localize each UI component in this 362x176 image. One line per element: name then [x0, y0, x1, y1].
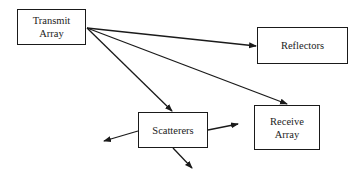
scatterers-box: Scatterers [138, 112, 208, 148]
arrow-scatterers-right [208, 124, 238, 130]
receive-array-box: Receive Array [254, 105, 320, 150]
reflectors-label: Reflectors [281, 39, 324, 52]
transmit-array-label: Transmit Array [33, 14, 71, 40]
transmit-array-box: Transmit Array [17, 9, 86, 45]
arrow-scatterers-down [173, 148, 192, 168]
diagram-canvas: Transmit Array Reflectors Scatterers Rec… [0, 0, 362, 176]
receive-array-label: Receive Array [270, 115, 304, 141]
arrow-transmit-to-scatterers [87, 28, 172, 111]
scatterers-label: Scatterers [152, 124, 193, 137]
arrow-scatterers-left [104, 131, 138, 141]
reflectors-box: Reflectors [257, 27, 348, 64]
